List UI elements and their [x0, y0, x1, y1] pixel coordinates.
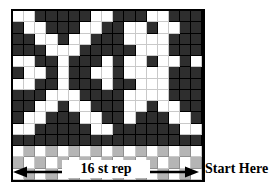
stitch-cell: [113, 90, 124, 101]
stitch-cell: [180, 135, 191, 146]
stitch-cell: [158, 124, 169, 135]
stitch-cell: [46, 101, 57, 112]
stitch-cell: [13, 124, 24, 135]
stitch-cell: [69, 45, 80, 56]
stitch-cell: [136, 112, 147, 123]
stitch-cell: [102, 135, 113, 146]
stitch-cell: [180, 90, 191, 101]
stitch-cell: [136, 101, 147, 112]
stitch-cell: [102, 56, 113, 67]
stitch-cell: [69, 112, 80, 123]
stitch-cell: [80, 22, 91, 33]
stitch-cell: [147, 22, 158, 33]
stitch-cell: [13, 101, 24, 112]
stitch-cell: [46, 67, 57, 78]
stitch-cell: [136, 90, 147, 101]
stitch-cell: [69, 101, 80, 112]
stitch-cell: [80, 135, 91, 146]
stitch-cell: [58, 56, 69, 67]
stitch-cell: [180, 22, 191, 33]
stitch-cell: [91, 90, 102, 101]
stitch-cell: [180, 67, 191, 78]
stitch-cell: [102, 101, 113, 112]
stitch-cell: [58, 101, 69, 112]
stitch-cell: [180, 45, 191, 56]
stitch-cell: [158, 56, 169, 67]
knitting-chart-figure: 16 st rep Start Here: [0, 0, 271, 184]
stitch-cell: [13, 112, 24, 123]
stitch-cell: [35, 56, 46, 67]
stitch-cell: [191, 11, 202, 22]
stitch-cell: [169, 112, 180, 123]
stitch-cell: [24, 67, 35, 78]
stitch-cell: [91, 22, 102, 33]
stitch-cell: [113, 124, 124, 135]
stitch-cell: [180, 101, 191, 112]
stitch-cell: [46, 22, 57, 33]
stitch-cell: [136, 67, 147, 78]
stitch-cell: [46, 146, 57, 157]
stitch-cell: [91, 79, 102, 90]
stitch-cell: [58, 112, 69, 123]
stitch-cell: [169, 146, 180, 157]
stitch-cell: [113, 67, 124, 78]
stitch-cell: [46, 11, 57, 22]
stitch-cell: [80, 79, 91, 90]
stitch-cell: [24, 56, 35, 67]
stitch-cell: [24, 146, 35, 157]
stitch-cell: [58, 67, 69, 78]
stitch-cell: [136, 22, 147, 33]
stitch-cell: [124, 90, 135, 101]
stitch-cell: [147, 101, 158, 112]
stitch-cell: [191, 22, 202, 33]
stitch-cell: [124, 124, 135, 135]
stitch-cell: [24, 22, 35, 33]
stitch-cell: [158, 146, 169, 157]
stitch-cell: [147, 135, 158, 146]
stitch-cell: [191, 34, 202, 45]
stitch-cell: [147, 11, 158, 22]
stitch-cell: [158, 67, 169, 78]
stitch-cell: [113, 135, 124, 146]
stitch-cell: [169, 34, 180, 45]
chart-caption: 16 st rep Start Here: [0, 158, 271, 184]
stitch-cell: [35, 45, 46, 56]
stitch-cell: [191, 112, 202, 123]
stitch-cell: [24, 124, 35, 135]
stitch-cell: [58, 146, 69, 157]
stitch-cell: [169, 101, 180, 112]
stitch-cell: [191, 135, 202, 146]
stitch-cell: [80, 101, 91, 112]
stitch-cell: [24, 11, 35, 22]
stitch-cell: [35, 101, 46, 112]
stitch-cell: [69, 56, 80, 67]
stitch-cell: [124, 112, 135, 123]
stitch-cell: [91, 45, 102, 56]
start-here-label: Start Here: [205, 160, 268, 178]
stitch-cell: [147, 45, 158, 56]
stitch-cell: [124, 22, 135, 33]
stitch-cell: [113, 34, 124, 45]
stitch-cell: [102, 11, 113, 22]
stitch-cell: [191, 101, 202, 112]
stitch-cell: [58, 11, 69, 22]
stitch-cell: [191, 79, 202, 90]
stitch-cell: [80, 11, 91, 22]
stitch-cell: [169, 79, 180, 90]
stitch-cell: [136, 146, 147, 157]
stitch-cell: [91, 146, 102, 157]
stitch-cell: [35, 22, 46, 33]
stitch-cell: [136, 11, 147, 22]
stitch-cell: [24, 135, 35, 146]
stitch-cell: [158, 22, 169, 33]
stitch-cell: [24, 90, 35, 101]
stitch-cell: [102, 112, 113, 123]
stitch-cell: [102, 67, 113, 78]
stitch-cell: [180, 34, 191, 45]
stitch-cell: [136, 45, 147, 56]
stitch-cell: [58, 45, 69, 56]
stitch-cell: [169, 11, 180, 22]
stitch-cell: [80, 45, 91, 56]
stitch-cell: [58, 124, 69, 135]
stitch-cell: [124, 135, 135, 146]
